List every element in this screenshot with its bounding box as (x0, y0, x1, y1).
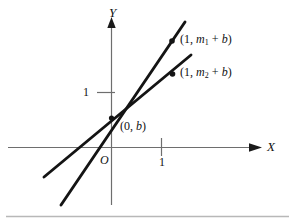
x-axis-arrowhead (249, 143, 262, 151)
point-2-plus-sign: + (209, 65, 222, 79)
point-1-close-paren: ) (228, 32, 232, 46)
line-series-1 (61, 22, 185, 205)
marker-intercept (109, 115, 114, 120)
point-1-slope-symbol: m (196, 32, 205, 46)
point-1-open-paren: (1, (180, 32, 196, 46)
point-1-annotation: (1, m1 + b) (180, 33, 232, 47)
marker-point-2 (170, 71, 176, 77)
line-series-2 (44, 55, 191, 177)
marker-point-1 (169, 38, 175, 44)
x-axis-label: X (267, 140, 275, 153)
origin-label: O (100, 154, 109, 166)
y-tick-label-1: 1 (83, 86, 89, 98)
point-2-close-paren: ) (228, 65, 232, 79)
x-tick-label-1: 1 (159, 156, 165, 168)
point-2-annotation: (1, m2 + b) (180, 66, 232, 80)
y-intercept-annotation: (0, b) (120, 120, 146, 132)
intercept-close-paren: ) (142, 119, 146, 133)
series-group (44, 22, 191, 205)
line-graph-figure: Y X O 1 1 (0, b) (1, m1 + b) (1, m2 + b) (0, 0, 295, 222)
point-2-open-paren: (1, (180, 65, 196, 79)
point-2-slope-symbol: m (196, 65, 205, 79)
graph-canvas (0, 0, 295, 222)
intercept-open-paren: (0, (120, 119, 136, 133)
y-axis-label: Y (109, 6, 116, 19)
point-1-plus-sign: + (209, 32, 222, 46)
